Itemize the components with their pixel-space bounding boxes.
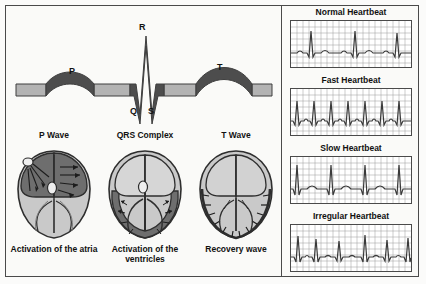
wave-label-p: P [69,66,75,76]
rhythm-strip-title: Fast Heartbeat [282,74,420,88]
t-wave-segment [196,68,252,97]
heart-atria-activation-icon [10,142,98,242]
rhythm-strip-title: Slow Heartbeat [282,142,420,156]
ecg-figure: P R Q S T P Wave [0,0,426,284]
rhythm-strip-graph [290,88,412,136]
heart-ventricles-activation-icon [101,142,189,242]
rhythm-strip-graph [290,156,412,204]
rhythm-strip-title: Normal Heartbeat [282,6,420,20]
phase-card-p-wave: P Wave [10,130,98,276]
phase-card-title: QRS Complex [101,130,189,141]
phase-card-caption: Activation of the ventricles [101,244,189,264]
phase-card-title: T Wave [192,130,280,141]
rhythm-strip-graph [290,20,412,68]
phase-card-t-wave: T Wave [192,130,280,276]
rhythm-strip-graph [290,224,412,272]
rhythm-strip-title: Irregular Heartbeat [282,210,420,224]
wave-label-t: T [217,62,223,72]
wave-label-s: S [148,106,154,116]
rhythm-strip-irregular: Irregular Heartbeat [282,210,420,277]
heart-recovery-wave-icon [192,142,280,242]
rhythm-strip-fast: Fast Heartbeat [282,74,420,141]
rhythm-strips-panel: Normal Heartbeat Fast Heartbeat [282,6,420,276]
phase-card-qrs-complex: QRS Complex [101,130,189,276]
left-panel: P R Q S T P Wave [6,6,281,276]
rhythm-strip-normal: Normal Heartbeat [282,6,420,73]
wave-label-r: R [139,22,146,32]
ecg-trace-area: P R Q S T [6,6,281,130]
rhythm-strip-slow: Slow Heartbeat [282,142,420,209]
phase-card-caption: Recovery wave [192,244,280,254]
phase-cards: P Wave [6,130,281,276]
wave-label-q: Q [130,106,137,116]
phase-card-caption: Activation of the atria [10,244,98,254]
phase-card-title: P Wave [10,130,98,141]
